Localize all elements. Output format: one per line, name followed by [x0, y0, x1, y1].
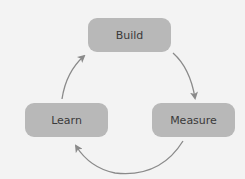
arrow-learn-to-build [62, 56, 84, 99]
node-learn-label: Learn [51, 114, 82, 127]
node-build-label: Build [116, 29, 144, 42]
node-build: Build [88, 18, 171, 52]
node-learn: Learn [25, 103, 108, 137]
node-measure: Measure [152, 103, 235, 137]
arrow-build-to-measure [173, 53, 195, 98]
arrow-measure-to-learn [76, 141, 183, 174]
diagram-canvas: Build Measure Learn [0, 0, 245, 179]
node-measure-label: Measure [170, 114, 217, 127]
